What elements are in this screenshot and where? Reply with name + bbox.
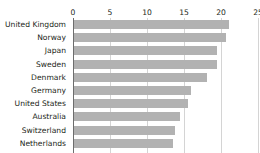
category-label: Switzerland [22,125,66,136]
category-label: Denmark [31,72,66,83]
y-axis-category-labels: United KingdomNorwayJapanSwedenDenmarkGe… [0,18,70,153]
category-label: United Kingdom [5,19,66,30]
bar [74,33,226,42]
category-label: United States [15,98,66,109]
bar [74,126,175,135]
x-tick-label: 10 [142,8,152,17]
category-label: Australia [32,111,66,122]
plot-area [73,18,258,153]
bar [74,60,217,69]
bar [74,20,229,29]
category-label: Netherlands [20,138,66,149]
bar [74,139,173,148]
category-label: Sweden [36,59,66,70]
gridline [258,18,259,153]
category-label: Norway [37,32,66,43]
bar-chart: 0510152025 United KingdomNorwayJapanSwed… [0,0,260,153]
x-tick-label: 0 [71,8,76,17]
x-tick-label: 15 [179,8,189,17]
bar [74,112,180,121]
category-label: Japan [45,45,66,56]
x-axis-tick-labels: 0510152025 [73,8,258,18]
bar [74,99,188,108]
bar [74,46,217,55]
category-label: Germany [31,85,66,96]
x-tick-label: 25 [253,8,260,17]
x-tick-label: 20 [216,8,226,17]
bar [74,86,191,95]
clipped-top-text [8,0,128,5]
bar [74,73,207,82]
x-tick-label: 5 [108,8,113,17]
